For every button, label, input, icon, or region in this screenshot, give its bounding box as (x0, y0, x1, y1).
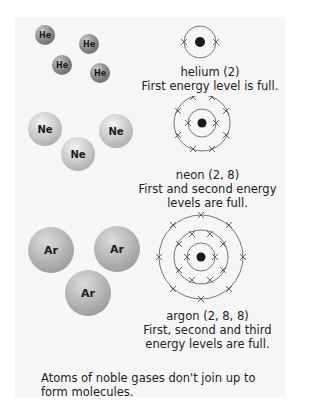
atom-label: He (94, 69, 106, 78)
neon-atom: Ne (99, 114, 133, 148)
atom-label: He (83, 40, 95, 49)
neon-caption: neon (2, 8) First and second energy leve… (130, 168, 285, 210)
argon-name: argon (2, 8, 8) (130, 309, 285, 323)
argon-description-line2: energy levels are full. (130, 337, 285, 351)
helium-shell-diagram (170, 20, 270, 60)
footer-note: Atoms of noble gases don't join up to fo… (41, 371, 276, 399)
neon-shell-diagram (160, 96, 250, 158)
helium-atom: He (90, 63, 110, 83)
argon-caption: argon (2, 8, 8) First, second and third … (130, 309, 285, 351)
argon-atom: Ar (94, 226, 140, 272)
atom-label: Ar (81, 287, 95, 300)
neon-description-line1: First and second energy (130, 182, 285, 196)
helium-atom: He (35, 25, 55, 45)
neon-atom: Ne (61, 137, 95, 171)
neon-atom: Ne (28, 112, 62, 146)
helium-description: First energy level is full. (140, 79, 280, 93)
atom-label: He (39, 31, 51, 40)
neon-description-line2: levels are full. (130, 196, 285, 210)
atom-label: He (56, 61, 68, 70)
atom-label: Ar (110, 243, 124, 256)
atom-label: Ar (44, 244, 58, 257)
argon-atom: Ar (28, 227, 74, 273)
helium-atom: He (79, 34, 99, 54)
atom-label: Ne (108, 126, 123, 137)
helium-caption: helium (2) First energy level is full. (140, 65, 280, 93)
argon-atom: Ar (65, 270, 111, 316)
helium-atom: He (52, 55, 72, 75)
argon-shell-diagram (155, 212, 255, 304)
argon-description-line1: First, second and third (130, 323, 285, 337)
neon-name: neon (2, 8) (130, 168, 285, 182)
atom-label: Ne (37, 124, 52, 135)
helium-name: helium (2) (140, 65, 280, 79)
atom-label: Ne (70, 149, 85, 160)
